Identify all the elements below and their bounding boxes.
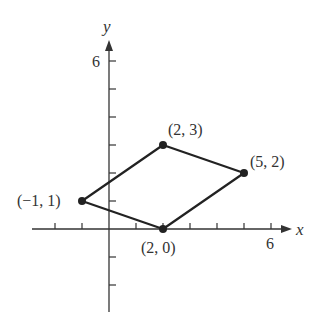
y-tick-label-6: 6 — [92, 53, 100, 70]
vertex-label-2-0: (2, 0) — [141, 239, 176, 257]
y-axis-label: y — [101, 17, 111, 36]
x-axis-arrow-icon — [281, 225, 292, 233]
vertex-2-0 — [159, 225, 167, 233]
vertex-5-2 — [240, 169, 248, 177]
vertex-neg1-1 — [78, 197, 86, 205]
parallelogram — [82, 145, 244, 229]
vertex-label-2-3: (2, 3) — [168, 121, 203, 139]
vertex-label-neg1-1: (−1, 1) — [17, 192, 61, 210]
vertex-label-5-2: (5, 2) — [250, 153, 285, 171]
y-ticks — [109, 61, 116, 285]
x-tick-label-6: 6 — [266, 235, 274, 252]
vertex-2-3 — [159, 141, 167, 149]
coordinate-plot: x y 6 6 (−1, 1) (2, 3) (5, 2) (2, 0) — [0, 0, 318, 318]
y-axis-arrow-icon — [105, 40, 113, 51]
x-axis-label: x — [295, 220, 304, 239]
